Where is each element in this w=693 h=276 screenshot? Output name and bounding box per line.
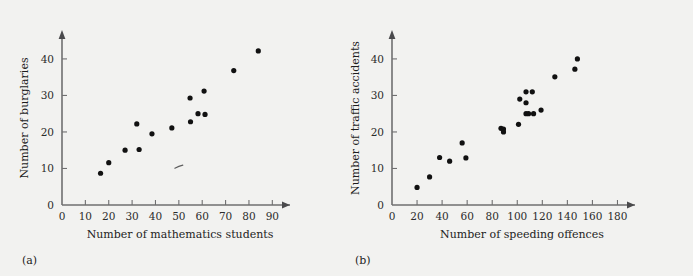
data-point <box>463 155 468 160</box>
chart-b-svg: 020406080100120140160180010203040 Number… <box>347 0 693 276</box>
panel-label-a: (a) <box>22 254 37 267</box>
x-ticklabel-b-40: 40 <box>435 210 448 222</box>
x-ticklabel-b-160: 160 <box>582 210 602 222</box>
chart-panel-b: 020406080100120140160180010203040 Number… <box>347 0 693 276</box>
data-point <box>195 111 200 116</box>
data-point <box>201 88 206 93</box>
data-point <box>202 112 207 117</box>
y-ticklabel-a-0: 0 <box>47 199 54 211</box>
y-ticklabel-b-30: 30 <box>371 89 384 101</box>
y-ticklabel-a-30: 30 <box>41 89 54 101</box>
chart-b-datapoints <box>414 56 580 190</box>
chart-a-ticks: 0102030405060708090010203040 <box>41 53 279 222</box>
x-ticklabel-a-20: 20 <box>102 210 115 222</box>
data-point <box>98 171 103 176</box>
data-point <box>516 122 521 127</box>
data-point <box>530 89 535 94</box>
y-ticklabel-b-40: 40 <box>371 53 384 65</box>
x-ticklabel-b-180: 180 <box>607 210 627 222</box>
x-ticklabel-b-120: 120 <box>532 210 552 222</box>
x-ticklabel-b-20: 20 <box>410 210 423 222</box>
data-point <box>517 96 522 101</box>
chart-b-ticks: 020406080100120140160180010203040 <box>371 53 628 222</box>
x-axis-arrowhead-a <box>282 202 290 209</box>
data-point <box>169 125 174 130</box>
x-ticklabel-a-60: 60 <box>196 210 209 222</box>
y-ticklabel-a-20: 20 <box>41 126 54 138</box>
x-axis-title-a: Number of mathematics students <box>87 228 274 241</box>
y-ticklabel-b-10: 10 <box>371 162 384 174</box>
x-ticklabel-b-140: 140 <box>557 210 577 222</box>
x-ticklabel-b-0: 0 <box>389 210 396 222</box>
x-axis-title-b: Number of speeding offences <box>440 228 604 241</box>
x-ticklabel-b-100: 100 <box>507 210 527 222</box>
data-point <box>460 140 465 145</box>
panel-label-b: (b) <box>355 254 371 267</box>
stray-mark <box>175 165 183 168</box>
chart-b-axes <box>389 30 635 208</box>
x-ticklabel-a-40: 40 <box>149 210 162 222</box>
data-point <box>447 159 452 164</box>
data-point <box>134 121 139 126</box>
chart-panel-a: 0102030405060708090010203040 Number of m… <box>0 0 346 276</box>
chart-a-annotations <box>175 165 183 168</box>
data-point <box>149 131 154 136</box>
data-point <box>501 129 506 134</box>
data-point <box>538 107 543 112</box>
y-ticklabel-b-20: 20 <box>371 126 384 138</box>
data-point <box>523 89 528 94</box>
chart-a-axes <box>59 30 290 208</box>
data-point <box>122 148 127 153</box>
x-ticklabel-a-70: 70 <box>219 210 232 222</box>
x-ticklabel-a-50: 50 <box>172 210 185 222</box>
x-ticklabel-a-30: 30 <box>125 210 138 222</box>
x-ticklabel-a-80: 80 <box>242 210 255 222</box>
data-point <box>106 160 111 165</box>
x-ticklabel-b-60: 60 <box>460 210 473 222</box>
data-point <box>188 119 193 124</box>
data-point <box>137 147 142 152</box>
data-point <box>427 174 432 179</box>
y-ticklabel-a-10: 10 <box>41 162 54 174</box>
data-point <box>526 111 531 116</box>
data-point <box>523 100 528 105</box>
data-point <box>437 155 442 160</box>
data-point <box>231 68 236 73</box>
data-point <box>256 48 261 53</box>
chart-a-datapoints <box>98 48 261 176</box>
scatterplot-figure: 0102030405060708090010203040 Number of m… <box>0 0 693 276</box>
data-point <box>531 111 536 116</box>
y-axis-arrowhead-a <box>59 30 66 39</box>
y-axis-title-a: Number of burglaries <box>18 57 31 178</box>
data-point <box>572 67 577 72</box>
data-point <box>552 74 557 79</box>
chart-a-svg: 0102030405060708090010203040 Number of m… <box>0 0 346 276</box>
y-ticklabel-b-0: 0 <box>377 199 384 211</box>
x-ticklabel-a-90: 90 <box>266 210 279 222</box>
x-ticklabel-a-10: 10 <box>79 210 92 222</box>
x-axis-arrowhead-b <box>627 202 635 209</box>
data-point <box>575 56 580 61</box>
x-ticklabel-b-80: 80 <box>486 210 499 222</box>
y-axis-arrowhead-b <box>389 30 396 39</box>
y-axis-title-b: Number of traffic accidents <box>349 41 362 195</box>
y-ticklabel-a-40: 40 <box>41 53 54 65</box>
x-ticklabel-a-0: 0 <box>59 210 66 222</box>
data-point <box>187 95 192 100</box>
data-point <box>414 185 419 190</box>
